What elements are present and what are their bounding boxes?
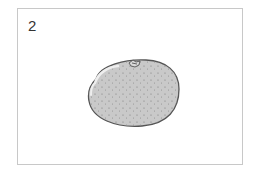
picture-card: 2 — [17, 8, 243, 165]
orange-fruit-icon — [86, 57, 182, 129]
card-number: 2 — [28, 18, 36, 33]
